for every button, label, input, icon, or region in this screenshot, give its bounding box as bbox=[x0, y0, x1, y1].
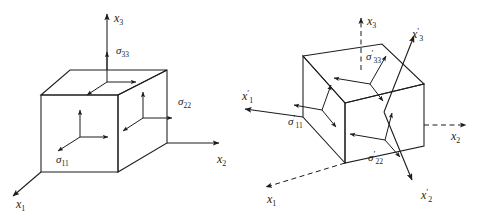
label-sigma-33: σ33 bbox=[116, 44, 129, 59]
label-x2: x2 bbox=[216, 152, 226, 168]
figure-labels: x3 x2 x1 σ33 σ22 σ11 x3 x′3 x′1 x2 bbox=[0, 0, 477, 216]
label-x3-dashed: x3 bbox=[366, 14, 376, 30]
label-x2-dashed: x2 bbox=[450, 129, 460, 145]
label-sigma-11-prime: σ′11 bbox=[288, 113, 303, 130]
label-x2-prime: x′2 bbox=[420, 187, 432, 204]
label-x3: x3 bbox=[113, 11, 123, 27]
label-x1-prime: x′1 bbox=[241, 88, 253, 105]
label-sigma-11: σ11 bbox=[56, 153, 69, 168]
label-x1: x1 bbox=[15, 197, 25, 213]
label-x3-prime: x′3 bbox=[411, 26, 423, 43]
label-sigma-22: σ22 bbox=[178, 95, 191, 110]
label-x1-dashed: x1 bbox=[266, 192, 276, 208]
label-sigma-22-prime: σ′22 bbox=[368, 149, 383, 166]
label-sigma-33-prime: σ′33 bbox=[366, 48, 381, 65]
stress-element-figure: x3 x2 x1 σ33 σ22 σ11 x3 x′3 x′1 x2 bbox=[0, 0, 477, 216]
